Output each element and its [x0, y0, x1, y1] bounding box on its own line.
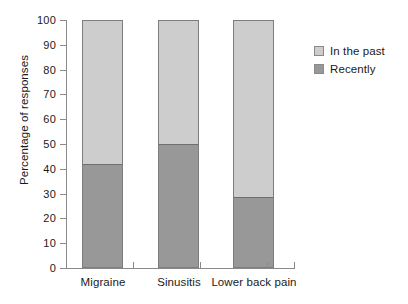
- y-tick-70: [60, 94, 67, 95]
- legend-swatch-recently: [314, 64, 324, 74]
- y-tick-20: [60, 218, 67, 219]
- y-tick-90: [60, 45, 67, 46]
- bar-sinusitis: [158, 20, 199, 268]
- bar-segment-in-the-past: [233, 20, 274, 197]
- y-tick-40: [60, 169, 67, 170]
- y-tick-label-0: 0: [2, 263, 56, 274]
- chart-legend: In the past Recently: [314, 43, 408, 79]
- y-tick-30: [60, 194, 67, 195]
- y-tick-label-30: 30: [2, 189, 56, 200]
- bar-segment-recently: [82, 164, 123, 268]
- bar-segment-in-the-past: [82, 20, 123, 164]
- x-tick-0: [66, 262, 67, 269]
- y-tick-label-90: 90: [2, 40, 56, 51]
- y-tick-50: [60, 144, 67, 145]
- y-tick-label-40: 40: [2, 164, 56, 175]
- y-tick-label-80: 80: [2, 65, 56, 76]
- legend-item-recently: Recently: [314, 61, 408, 77]
- y-tick-60: [60, 119, 67, 120]
- y-tick-label-20: 20: [2, 213, 56, 224]
- legend-label-in-the-past: In the past: [330, 45, 385, 58]
- legend-swatch-in-the-past: [314, 46, 324, 56]
- bar-segment-in-the-past: [158, 20, 199, 144]
- bar-segment-recently: [233, 197, 274, 268]
- y-tick-label-100: 100: [2, 15, 56, 26]
- x-tick-3: [267, 262, 268, 269]
- bar-lower-back-pain: [233, 20, 274, 268]
- x-axis-line: [66, 268, 295, 269]
- x-tick-1: [133, 262, 134, 269]
- x-axis-label-lower-back-pain: Lower back pain: [194, 276, 314, 289]
- legend-label-recently: Recently: [330, 63, 376, 76]
- legend-item-in-the-past: In the past: [314, 43, 408, 59]
- y-tick-label-60: 60: [2, 114, 56, 125]
- y-tick-label-70: 70: [2, 89, 56, 100]
- x-tick-2: [200, 262, 201, 269]
- y-tick-label-50: 50: [2, 139, 56, 150]
- y-tick-80: [60, 70, 67, 71]
- stacked-bar-chart: Percentage of responses 0102030405060708…: [0, 0, 408, 304]
- y-tick-100: [60, 20, 67, 21]
- plot-area: [67, 20, 295, 268]
- bar-segment-recently: [158, 144, 199, 268]
- y-tick-label-10: 10: [2, 238, 56, 249]
- x-tick-4: [294, 262, 295, 269]
- bar-migraine: [82, 20, 123, 268]
- y-tick-10: [60, 243, 67, 244]
